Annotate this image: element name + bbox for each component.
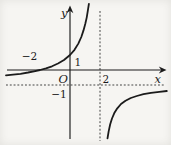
curve-right-branch [108, 91, 167, 138]
y-axis-label: y [60, 6, 68, 20]
tick-label-minus-one: −1 [51, 88, 66, 100]
tick-label-two: 2 [103, 73, 110, 85]
x-axis-label: x [155, 72, 162, 86]
origin-label: O [59, 72, 69, 86]
graph-canvas: y x O 1 −2 2 −1 [0, 0, 171, 145]
tick-label-one: 1 [75, 56, 82, 68]
tick-label-minus-two: −2 [22, 50, 37, 62]
function-graph-figure: y x O 1 −2 2 −1 [0, 0, 171, 145]
